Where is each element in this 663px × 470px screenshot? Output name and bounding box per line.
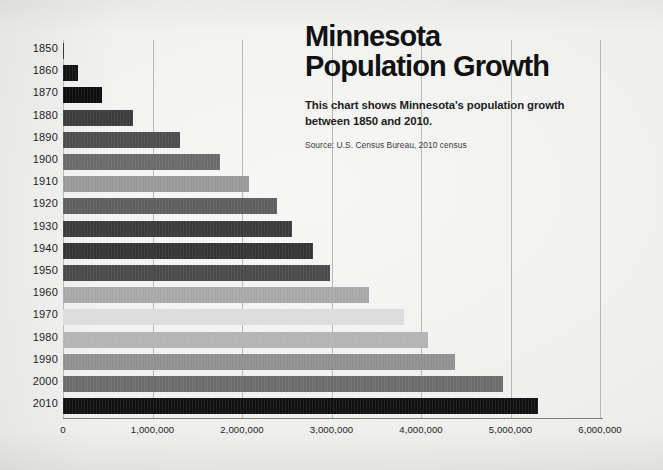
bar-1880 (63, 110, 133, 126)
bar-1970 (63, 309, 404, 325)
bar-1900 (63, 154, 220, 170)
bar-row (63, 373, 600, 395)
bar-1960 (63, 287, 369, 303)
bar-row (63, 329, 600, 351)
bar-1980 (63, 332, 428, 348)
x-tick-2000000: 2,000,000 (220, 424, 264, 435)
y-tick-1980: 1980 (2, 331, 58, 343)
y-tick-2000: 2000 (2, 375, 58, 387)
bar-row (63, 218, 600, 240)
bar-row (63, 395, 600, 417)
bar-1910 (63, 176, 249, 192)
y-tick-1920: 1920 (2, 197, 58, 209)
x-axis-line (63, 418, 603, 419)
y-tick-1930: 1930 (2, 220, 58, 232)
bar-row (63, 284, 600, 306)
bar-row (63, 351, 600, 373)
y-tick-1880: 1880 (2, 109, 58, 121)
y-tick-1850: 1850 (2, 42, 58, 54)
y-tick-1960: 1960 (2, 286, 58, 298)
y-tick-2010: 2010 (2, 397, 58, 409)
bar-row (63, 240, 600, 262)
bar-1870 (63, 87, 102, 103)
bar-1860 (63, 65, 78, 81)
y-tick-1900: 1900 (2, 153, 58, 165)
page-title: Minnesota Population Growth (305, 22, 645, 81)
chart-source: Source: U.S. Census Bureau, 2010 census (305, 140, 645, 150)
bar-2010 (63, 398, 538, 414)
chart-subtitle: This chart shows Minnesota's population … (305, 97, 645, 129)
y-tick-1890: 1890 (2, 131, 58, 143)
y-tick-1970: 1970 (2, 308, 58, 320)
y-tick-1940: 1940 (2, 242, 58, 254)
bar-1930 (63, 221, 292, 237)
bar-row (63, 262, 600, 284)
y-tick-1950: 1950 (2, 264, 58, 276)
bar-1940 (63, 243, 313, 259)
y-tick-1870: 1870 (2, 86, 58, 98)
bar-1950 (63, 265, 330, 281)
bar-2000 (63, 376, 503, 392)
x-tick-1000000: 1,000,000 (131, 424, 175, 435)
headline-block: Minnesota Population Growth This chart s… (305, 22, 645, 150)
bar-1990 (63, 354, 455, 370)
x-tick-3000000: 3,000,000 (310, 424, 354, 435)
bar-row (63, 195, 600, 217)
bar-row (63, 306, 600, 328)
bar-row (63, 151, 600, 173)
x-tick-5000000: 5,000,000 (489, 424, 533, 435)
x-tick-0: 0 (60, 424, 65, 435)
x-tick-6000000: 6,000,000 (578, 424, 622, 435)
bar-row (63, 173, 600, 195)
bar-1850 (63, 43, 64, 59)
y-tick-1990: 1990 (2, 353, 58, 365)
bar-1890 (63, 132, 180, 148)
bar-1920 (63, 198, 277, 214)
x-tick-4000000: 4,000,000 (399, 424, 443, 435)
y-tick-1910: 1910 (2, 175, 58, 187)
y-tick-1860: 1860 (2, 64, 58, 76)
